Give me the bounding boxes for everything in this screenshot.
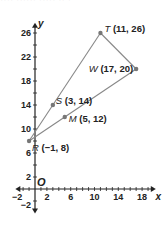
y-tick-label: 6: [26, 148, 31, 158]
y-tick-label: 14: [21, 100, 31, 110]
point-label-M: M (5, 12): [69, 113, 107, 124]
point-W: [134, 67, 138, 71]
point-T: [98, 31, 102, 35]
point-label-S: S (3, 14): [56, 95, 92, 106]
y-tick-label: 22: [21, 52, 31, 62]
segment-RT: [29, 33, 100, 141]
x-tick-label: 18: [137, 192, 147, 202]
point-M: [63, 115, 67, 119]
point-label-T: T (11, 26): [104, 23, 145, 34]
x-tick-label: 2: [44, 192, 49, 202]
points: R (−1, 8)S (3, 14)M (5, 12)T (11, 26)W (…: [27, 23, 145, 153]
y-tick-label: 18: [21, 76, 31, 86]
y-tick-label: 2: [26, 172, 31, 182]
point-S: [51, 103, 55, 107]
y-axis-label: y: [37, 18, 44, 29]
y-tick-label: −2: [21, 200, 31, 210]
point-label-R: R (−1, 8): [32, 142, 69, 153]
y-tick-label: 10: [21, 124, 31, 134]
x-axis-label: x: [154, 191, 161, 202]
y-axis-down-arrow-icon: [32, 209, 38, 214]
origin-label: O: [37, 176, 46, 188]
x-tick-label: 6: [68, 192, 73, 202]
y-tick-label: 26: [21, 28, 31, 38]
coordinate-plane: −226101418−2261014182226xyO R (−1, 8)S (…: [0, 0, 165, 229]
x-tick-label: 14: [113, 192, 123, 202]
triangle-rtw: [29, 33, 136, 141]
point-R: [27, 139, 31, 143]
x-tick-label: 10: [89, 192, 99, 202]
point-label-W: W (17, 20): [89, 63, 133, 74]
